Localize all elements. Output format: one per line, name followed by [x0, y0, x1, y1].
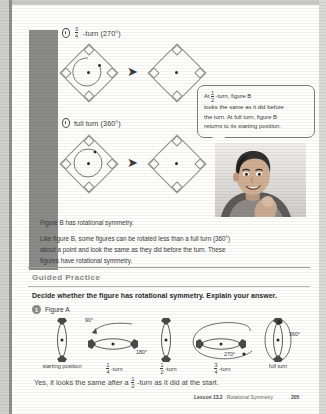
fish-shape-vertical-icon — [36, 317, 88, 363]
section-heading-text: full turn (360°) — [74, 119, 121, 128]
page-edge-left — [0, 0, 9, 414]
fish-caption-quarter-turn: 1 4 -turn — [88, 363, 140, 375]
fraction-one-quarter: 1 4 — [106, 363, 109, 375]
angle-label-360: 360° — [289, 331, 300, 337]
caption-text: -turn — [165, 366, 177, 372]
fish-shape-horizontal-icon — [192, 331, 252, 357]
page-footer: Lesson 13.2 Rotational Symmetry 205 — [194, 394, 299, 400]
guided-practice-divider — [28, 267, 310, 268]
fish-shape-horizontal-icon — [86, 331, 142, 357]
answer-fraction-one-half: 1 2 — [131, 376, 134, 389]
callout-line4: returns to its starting position. — [204, 122, 308, 132]
question-number-badge: 1 — [32, 305, 41, 314]
answer-prefix: Yes, it looks the same after a — [34, 378, 129, 387]
fish-figure-starting-position — [36, 317, 88, 369]
figure-b-before-three-quarter-turn — [57, 41, 119, 103]
caption-text: -turn — [219, 366, 231, 372]
guided-practice-heading: Guided Practice — [32, 273, 100, 282]
guided-practice-divider-lower — [28, 286, 310, 287]
fraction-denominator: 4 — [106, 368, 109, 375]
oval-bullet-icon — [62, 118, 70, 128]
student-answer: Yes, it looks the same after a 1 2 -turn… — [34, 376, 219, 389]
transform-arrow-icon: ➤ — [127, 156, 138, 169]
fish-caption-half-turn: 1 2 -turn — [142, 363, 194, 375]
section-heading-text: -turn (270°) — [83, 29, 121, 38]
section-heading-full-turn: full turn (360°) — [62, 118, 121, 128]
fish-figure-full-turn — [252, 317, 304, 369]
fish-caption-three-quarter-turn: 3 4 -turn — [196, 363, 248, 375]
student-photo — [215, 143, 306, 217]
footer-lesson-number: Lesson 13.2 — [194, 394, 223, 400]
page-edge-right — [319, 0, 326, 414]
callout-line3: the turn. At full turn, figure B — [204, 113, 308, 123]
fish-figure-half-turn — [140, 317, 192, 369]
fraction-one-half: 1 2 — [211, 91, 214, 103]
question-label: Figure A — [45, 306, 70, 313]
callout-line2: looks the same as it did before — [204, 103, 308, 113]
answer-suffix: -turn as it did at the start. — [137, 378, 219, 387]
center-point — [87, 71, 90, 74]
center-point — [175, 162, 178, 165]
footer-topic: Rotational Symmetry — [227, 394, 273, 400]
fraction-denominator: 2 — [160, 368, 163, 375]
fraction-one-half: 1 2 — [160, 363, 163, 375]
paragraph-figure-b-symmetry: Figure B has rotational symmetry. — [40, 217, 230, 228]
callout-line1-prefix: At — [204, 92, 210, 102]
fraction-three-quarters: 3 4 — [214, 363, 217, 375]
center-point — [87, 162, 90, 165]
fraction-denominator: 2 — [211, 96, 214, 103]
callout-box: At 1 2 -turn, figure B looks the same as… — [197, 85, 315, 138]
fish-caption-full-turn: full turn — [252, 363, 304, 369]
student-photo-illustration — [215, 143, 306, 217]
fraction-denominator: 2 — [131, 382, 134, 389]
figure-b-before-full-turn — [57, 132, 119, 194]
fraction-denominator: 4 — [214, 368, 217, 375]
caption-text: starting position — [42, 363, 81, 369]
scanned-page-canvas: 3 4 -turn (270°) ➤ — [0, 0, 326, 414]
figure-b-after-full-turn — [145, 132, 207, 194]
fish-shape-vertical-icon — [140, 317, 192, 363]
textbook-page: 3 4 -turn (270°) ➤ — [12, 5, 319, 410]
guided-practice-instruction: Decide whether the figure has rotational… — [32, 292, 277, 299]
center-point — [175, 71, 178, 74]
oval-bullet-icon — [62, 28, 70, 38]
transform-arrow-icon: ➤ — [127, 65, 138, 78]
fish-shape-vertical-icon — [252, 317, 304, 363]
fraction-three-quarters: 3 4 — [75, 27, 78, 39]
paragraph-rotational-symmetry-definition: Like figure B, some figures can be rotat… — [40, 233, 236, 266]
footer-page-number: 205 — [291, 394, 299, 400]
section-heading-three-quarter-turn: 3 4 -turn (270°) — [62, 27, 121, 39]
fraction-denominator: 4 — [75, 32, 78, 39]
caption-text: full turn — [269, 363, 287, 369]
callout-line1-suffix: -turn, figure B — [216, 92, 252, 102]
caption-text: -turn — [111, 366, 123, 372]
